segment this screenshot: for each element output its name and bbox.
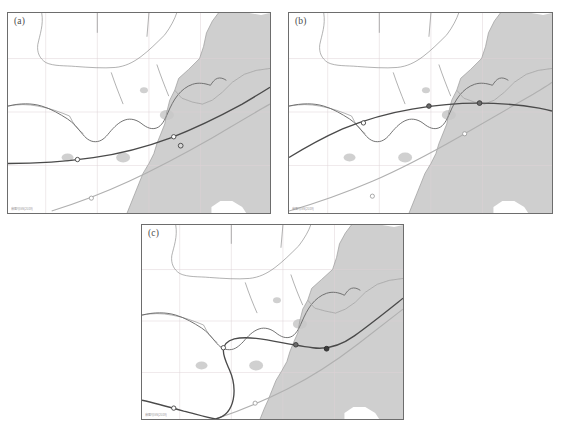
figure-container: (a) 审图号GS(2019) [0,0,564,425]
panel-label-b: (b) [295,16,307,26]
map-graphic-c [142,225,403,419]
map-watermark-b: 审图号GS(2019) [292,207,314,212]
track-secondary-markers-c [253,401,257,405]
map-graphic-b [289,13,552,213]
map-panel-c: (c) 审图号GS(2019) [141,224,404,420]
map-panel-b: (b) 审图号GS(2019) [288,12,553,214]
map-panel-a: (a) 审图号GS(2019) [7,12,271,214]
track-secondary-markers-a [89,196,93,200]
panel-label-c: (c) [148,228,159,238]
map-graphic-a [8,13,270,213]
map-watermark-c: 审图号GS(2019) [145,413,167,418]
panel-label-a: (a) [14,16,25,26]
map-watermark-a: 审图号GS(2019) [11,207,33,212]
